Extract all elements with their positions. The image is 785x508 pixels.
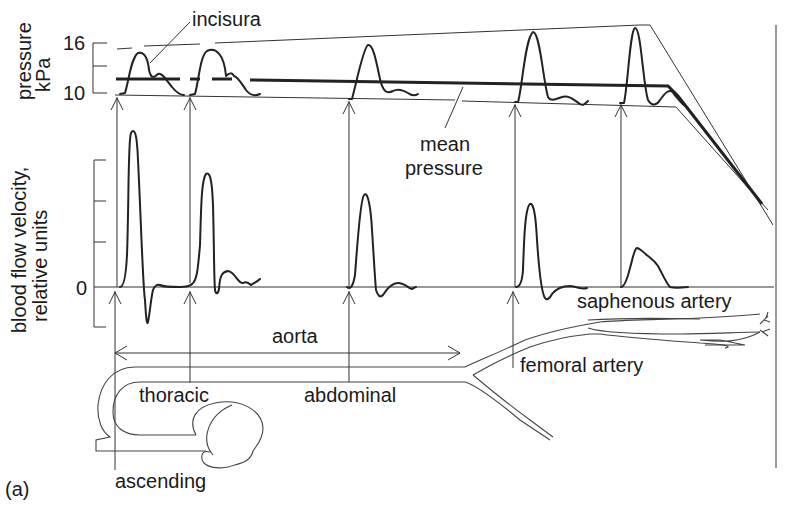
pressure-tick-16: 16 xyxy=(63,32,85,54)
velocity-axis-subtitle: relative units xyxy=(29,210,51,322)
mean-pressure-label-line1: mean xyxy=(420,133,470,155)
abdominal-label: abdominal xyxy=(304,384,396,406)
aorta-label: aorta xyxy=(272,325,318,347)
pressure-wave-ascending xyxy=(120,53,184,95)
incisura-label: incisura xyxy=(192,8,262,30)
arterial-waveform-diagram: pressure kPa 16 10 mean pressure incisur… xyxy=(0,0,785,508)
mean-pressure-label-line2: pressure xyxy=(405,157,483,179)
velocity-axis: blood flow velocity, relative units 0 xyxy=(8,160,106,333)
aorta-span-arrow: aorta xyxy=(115,325,460,360)
velocity-wave-abdominal xyxy=(347,194,416,296)
velocity-wave-ascending xyxy=(120,131,192,323)
pressure-wave-thoracic xyxy=(190,50,260,96)
pressure-axis: pressure kPa 16 10 xyxy=(13,22,107,104)
saphenous-artery-label: saphenous artery xyxy=(577,290,732,312)
site-markers xyxy=(109,97,627,470)
pressure-wave-femoral xyxy=(515,32,588,105)
panel-label: (a) xyxy=(5,478,29,500)
velocity-zero-tick: 0 xyxy=(76,277,87,299)
velocity-wave-saphenous xyxy=(621,248,688,288)
systolic-envelope xyxy=(117,25,773,225)
pressure-tick-10: 10 xyxy=(63,82,85,104)
velocity-wave-thoracic xyxy=(192,173,260,293)
velocity-wave-femoral xyxy=(516,204,587,299)
pressure-wave-abdominal xyxy=(349,45,418,99)
femoral-artery-label: femoral artery xyxy=(520,354,643,376)
pressure-axis-unit: kPa xyxy=(32,57,54,92)
ascending-label: ascending xyxy=(115,470,206,492)
thoracic-label: thoracic xyxy=(139,384,209,406)
velocity-axis-title: blood flow velocity, xyxy=(8,167,30,333)
